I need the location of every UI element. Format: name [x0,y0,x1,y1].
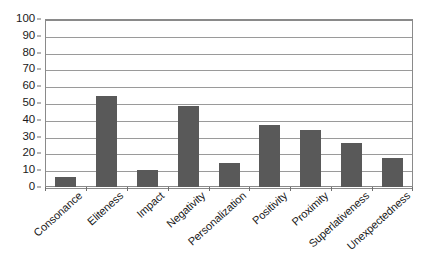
x-axis: ConsonanceElitenessImpactNegativityPerso… [0,190,426,262]
y-tick-mark [37,86,41,87]
y-tick-label: 90 [22,30,35,42]
bar-series [45,19,413,187]
y-tick-label: 40 [22,114,35,126]
bar [300,130,321,187]
y-tick-label: 60 [22,80,35,92]
y-tick-label: 80 [22,47,35,59]
y-axis: 0102030405060708090100 [0,19,41,187]
y-tick-mark [37,187,41,188]
y-tick-label: 10 [22,164,35,176]
y-tick-mark [37,35,41,36]
y-tick-mark [37,69,41,70]
bar [382,158,403,187]
x-tick-label: Consonance [32,190,85,239]
y-tick-mark [37,136,41,137]
y-tick-label: 70 [22,64,35,76]
y-tick-label: 20 [22,148,35,160]
y-tick-mark [37,52,41,53]
bar-chart-figure: 0102030405060708090100 ConsonanceElitene… [0,0,426,262]
x-tick-label: Eliteness [86,190,126,227]
y-tick-mark [37,153,41,154]
bar [55,177,76,187]
bar [137,170,158,187]
bar [219,163,240,187]
x-tick-label: Impact [135,190,166,220]
x-tick-label: Positivity [250,190,289,227]
y-tick-label: 100 [16,13,35,25]
y-tick-mark [37,119,41,120]
bar [341,143,362,187]
bar [96,96,117,187]
bar [259,125,280,187]
x-tick-label: Proximity [290,190,330,228]
y-tick-mark [37,103,41,104]
y-tick-label: 30 [22,131,35,143]
y-tick-label: 50 [22,97,35,109]
y-tick-mark [37,170,41,171]
y-tick-mark [37,19,41,20]
bar [178,106,199,187]
